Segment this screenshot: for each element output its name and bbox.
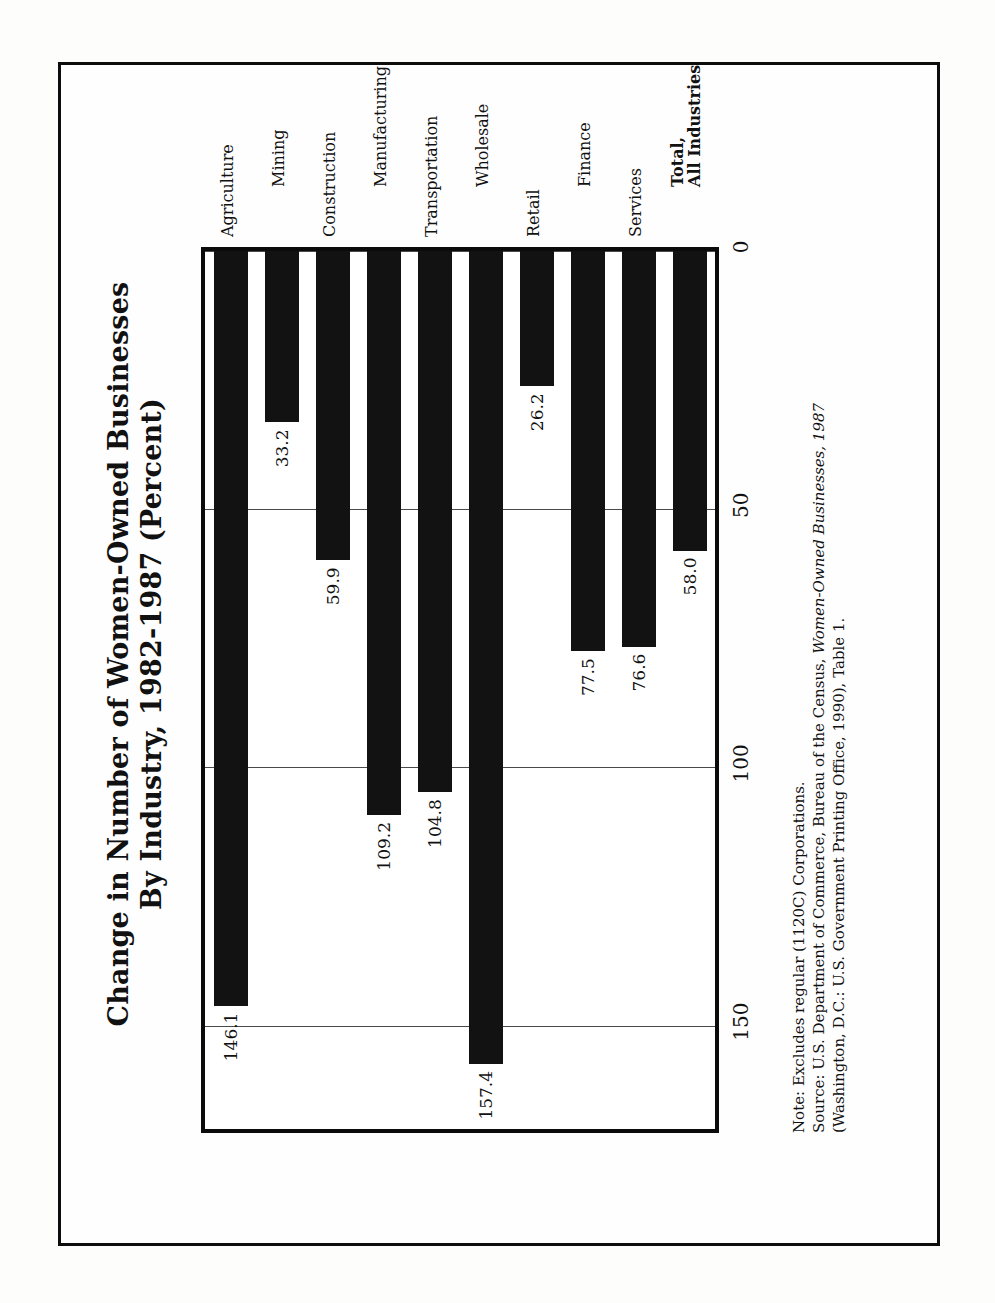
bar-value-label: 109.2: [374, 815, 394, 871]
category-label: Agriculture: [217, 85, 236, 239]
bar-value-label: 146.1: [221, 1006, 241, 1062]
rotated-figure: Change in Number of Women-Owned Business…: [89, 79, 909, 1229]
bar: [622, 251, 656, 647]
category-label: Transportation: [421, 85, 440, 239]
category-label: Retail: [523, 85, 542, 239]
source-line-1: Source: U.S. Department of Commerce, Bur…: [809, 173, 829, 1133]
axis-tick-label: 150: [729, 1003, 753, 1041]
category-label: Finance: [574, 35, 593, 239]
bar: [316, 251, 350, 560]
value-axis: 150100500: [721, 247, 767, 1133]
bar: [469, 251, 503, 1064]
chart-title: Change in Number of Women-Owned Business…: [103, 79, 169, 1229]
bar: [214, 251, 248, 1006]
category-label: Services: [625, 85, 644, 239]
bar-row: 77.5: [571, 251, 605, 1129]
bar-row: 26.2: [520, 251, 554, 1129]
scanned-page: Change in Number of Women-Owned Business…: [0, 0, 995, 1303]
axis-tick-label: 0: [729, 241, 753, 254]
bar-row: 33.2: [265, 251, 299, 1129]
bar-row: 109.2: [367, 251, 401, 1129]
bar-row: 59.9: [316, 251, 350, 1129]
axis-tick-label: 100: [729, 744, 753, 782]
axis-tick-label: 50: [729, 493, 753, 518]
bar-row: 58.0: [673, 251, 707, 1129]
page-border: Change in Number of Women-Owned Business…: [58, 62, 940, 1246]
note-line: Note: Excludes regular (1120C) Corporati…: [789, 173, 809, 1133]
chart-title-line-2: By Industry, 1982-1987 (Percent): [136, 79, 169, 1229]
bar-value-label: 76.6: [629, 647, 649, 692]
category-label: Manufacturing: [370, 35, 389, 239]
bar-value-label: 157.4: [476, 1064, 496, 1120]
bar-value-label: 104.8: [425, 792, 445, 848]
bar-value-label: 33.2: [272, 422, 292, 467]
bar-series: 146.133.259.9109.2104.8157.426.277.576.6…: [205, 251, 715, 1129]
bar-row: 76.6: [622, 251, 656, 1129]
category-label: Mining: [268, 35, 287, 239]
plot-area: 146.133.259.9109.2104.8157.426.277.576.6…: [201, 247, 719, 1133]
bar-value-label: 77.5: [578, 651, 598, 696]
bar-value-label: 26.2: [527, 386, 547, 431]
bar-value-label: 58.0: [680, 551, 700, 596]
bar: [673, 251, 707, 551]
bar: [571, 251, 605, 651]
bar: [265, 251, 299, 422]
source-prefix: Source: U.S. Department of Commerce, Bur…: [810, 654, 828, 1133]
source-line-2: (Washington, D.C.: U.S. Government Print…: [829, 173, 849, 1133]
footnotes: Note: Excludes regular (1120C) Corporati…: [789, 173, 849, 1133]
chart-title-line-1: Change in Number of Women-Owned Business…: [103, 79, 136, 1229]
category-label: Wholesale: [472, 35, 491, 239]
bar: [367, 251, 401, 815]
bar: [520, 251, 554, 386]
bar-value-label: 59.9: [323, 560, 343, 605]
bar-row: 157.4: [469, 251, 503, 1129]
bar-row: 146.1: [214, 251, 248, 1129]
source-title: Women-Owned Businesses, 1987: [810, 403, 828, 654]
bar-row: 104.8: [418, 251, 452, 1129]
category-axis: AgricultureMiningConstructionManufacturi…: [201, 87, 719, 239]
category-label: Construction: [319, 85, 338, 239]
category-label: Total,All Industries: [668, 35, 703, 239]
bar: [418, 251, 452, 792]
